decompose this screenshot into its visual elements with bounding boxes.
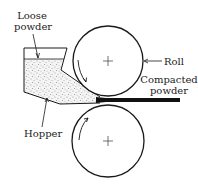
compacted-label-line1: Compacted bbox=[140, 74, 198, 85]
loose-powder-label-line2: powder bbox=[14, 21, 50, 32]
compacted-powder-label: Compacted powder bbox=[140, 74, 198, 96]
bottom-roll bbox=[72, 105, 144, 177]
hopper-label: Hopper bbox=[24, 128, 62, 139]
loose-powder-leader bbox=[33, 34, 38, 58]
compacted-strip bbox=[104, 98, 180, 102]
loose-powder-label: Loose powder bbox=[14, 10, 50, 32]
compacted-label-line2: powder bbox=[140, 85, 198, 96]
loose-powder-label-line1: Loose bbox=[14, 10, 50, 21]
top-roll bbox=[73, 26, 143, 96]
hopper-leader bbox=[42, 98, 47, 127]
roll-label: Roll bbox=[164, 56, 184, 67]
